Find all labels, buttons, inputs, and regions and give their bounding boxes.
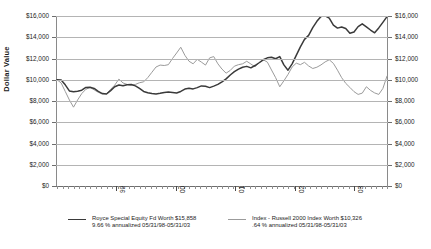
- y-axis-tick-label: $6,000: [395, 118, 431, 126]
- x-axis-minor-tick: [195, 186, 196, 189]
- gridline: [56, 16, 388, 17]
- y-axis-tick-label: $2,000: [0, 161, 49, 169]
- x-axis-minor-tick: [101, 186, 102, 189]
- legend-label-secondary: 9.66 % annualized 05/31/98-05/31/03: [92, 222, 196, 229]
- x-axis-minor-tick: [140, 186, 141, 189]
- x-axis-tick-label: 01: [238, 186, 245, 193]
- y-axis-tick-mark: [52, 165, 56, 166]
- y-axis-tick-label: $16,000: [395, 12, 431, 20]
- legend-color-swatch: [228, 219, 246, 220]
- x-axis-minor-tick: [316, 186, 317, 189]
- x-axis-minor-tick: [382, 186, 383, 189]
- x-axis-minor-tick: [261, 186, 262, 189]
- x-axis-minor-tick: [387, 186, 388, 189]
- chart-legend: Royce Special Equity Fd Worth $15,8589.6…: [0, 213, 431, 239]
- x-axis-minor-tick: [200, 186, 201, 189]
- gridline: [56, 59, 388, 60]
- y-axis-tick-mark: [388, 16, 392, 17]
- legend-label-primary: Royce Special Equity Fd Worth $15,858: [92, 215, 196, 222]
- legend-color-swatch: [68, 219, 86, 220]
- y-axis-tick-label: $4,000: [395, 140, 431, 148]
- x-axis-minor-tick: [277, 186, 278, 189]
- x-axis-tick-label: 03: [357, 186, 364, 193]
- x-axis-minor-tick: [151, 186, 152, 189]
- y-axis-tick-mark: [52, 80, 56, 81]
- x-axis-major-tick: [354, 186, 355, 191]
- y-axis-tick-mark: [388, 186, 392, 187]
- x-axis-minor-tick: [376, 186, 377, 189]
- x-axis-minor-tick: [371, 186, 372, 189]
- x-axis-minor-tick: [112, 186, 113, 189]
- x-axis-minor-tick: [129, 186, 130, 189]
- x-axis-minor-tick: [167, 186, 168, 189]
- x-axis-minor-tick: [255, 186, 256, 189]
- x-axis-minor-tick: [217, 186, 218, 189]
- y-axis-tick-label: $10,000: [0, 76, 49, 84]
- x-axis-major-tick: [235, 186, 236, 191]
- y-axis-tick-mark: [388, 165, 392, 166]
- x-axis-minor-tick: [343, 186, 344, 189]
- y-axis-tick-label: $8,000: [0, 97, 49, 105]
- x-axis-minor-tick: [321, 186, 322, 189]
- y-axis-tick-label: $4,000: [0, 140, 49, 148]
- x-axis-minor-tick: [107, 186, 108, 189]
- gridline: [56, 144, 388, 145]
- x-axis-minor-tick: [206, 186, 207, 189]
- legend-label: Index - Russell 2000 Index Worth $10,326…: [252, 215, 362, 230]
- legend-label-primary: Index - Russell 2000 Index Worth $10,326: [252, 215, 362, 222]
- x-axis-major-tick: [295, 186, 296, 191]
- series-line: [57, 47, 387, 107]
- y-axis-tick-mark: [52, 101, 56, 102]
- x-axis-minor-tick: [266, 186, 267, 189]
- x-axis-minor-tick: [305, 186, 306, 189]
- y-axis-tick-label: $14,000: [0, 33, 49, 41]
- y-axis-tick-label: $0: [0, 182, 49, 190]
- x-axis-minor-tick: [63, 186, 64, 189]
- x-axis-minor-tick: [338, 186, 339, 189]
- y-axis-tick-mark: [388, 59, 392, 60]
- legend-label: Royce Special Equity Fd Worth $15,8589.6…: [92, 215, 196, 230]
- x-axis-minor-tick: [233, 186, 234, 189]
- x-axis-minor-tick: [189, 186, 190, 189]
- y-axis-tick-mark: [388, 37, 392, 38]
- y-axis-tick-mark: [388, 101, 392, 102]
- x-axis-minor-tick: [349, 186, 350, 189]
- y-axis-tick-mark: [52, 37, 56, 38]
- x-axis-minor-tick: [228, 186, 229, 189]
- y-axis-tick-label: $12,000: [0, 55, 49, 63]
- y-axis-tick-mark: [388, 80, 392, 81]
- gridline: [56, 122, 388, 123]
- y-axis-tick-mark: [52, 16, 56, 17]
- x-axis-minor-tick: [156, 186, 157, 189]
- x-axis-tick-label: 99: [119, 186, 126, 193]
- x-axis-minor-tick: [211, 186, 212, 189]
- x-axis-major-tick: [176, 186, 177, 191]
- x-axis-minor-tick: [250, 186, 251, 189]
- legend-label-secondary: .64 % annualized 05/31/98-05/31/03: [252, 222, 362, 229]
- x-axis-minor-tick: [74, 186, 75, 189]
- gridline: [56, 101, 388, 102]
- x-axis-minor-tick: [310, 186, 311, 189]
- x-axis-minor-tick: [173, 186, 174, 189]
- x-axis-tick-label: 02: [298, 186, 305, 193]
- y-axis-tick-mark: [388, 122, 392, 123]
- x-axis-major-tick: [116, 186, 117, 191]
- x-axis-minor-tick: [68, 186, 69, 189]
- x-axis-minor-tick: [327, 186, 328, 189]
- x-axis-minor-tick: [96, 186, 97, 189]
- gridline: [56, 80, 388, 81]
- gridline: [56, 165, 388, 166]
- x-axis-minor-tick: [134, 186, 135, 189]
- growth-chart: Dollar Value $16,000$14,000$12,000$10,00…: [0, 0, 431, 249]
- y-axis-tick-label: $6,000: [0, 118, 49, 126]
- x-axis-minor-tick: [85, 186, 86, 189]
- y-axis-tick-mark: [52, 59, 56, 60]
- y-axis-title: Dollar Value: [2, 31, 16, 107]
- x-axis-minor-tick: [288, 186, 289, 189]
- y-axis-tick-label: $14,000: [395, 33, 431, 41]
- x-axis-minor-tick: [365, 186, 366, 189]
- series-line: [57, 16, 387, 94]
- x-axis-minor-tick: [272, 186, 273, 189]
- x-axis-minor-tick: [90, 186, 91, 189]
- x-axis-minor-tick: [57, 186, 58, 189]
